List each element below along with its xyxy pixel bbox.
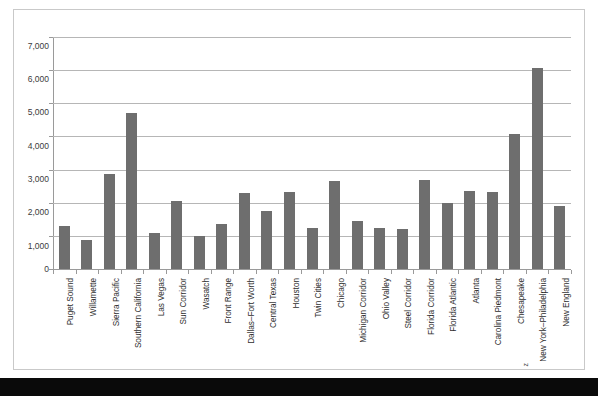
bar-chart: 7,000 6,000 5,000 4,000 3,000 2,000 1,00…: [14, 10, 586, 369]
bar: [532, 68, 543, 269]
bar: [397, 229, 408, 269]
x-axis-label: Central Texas: [270, 278, 278, 328]
x-axis-label: Twin Cities: [315, 278, 323, 318]
gridline: [53, 37, 571, 38]
bar: [239, 193, 250, 269]
footer-strip: [0, 378, 598, 396]
x-axis-tick: [526, 270, 527, 274]
x-axis-tick: [323, 270, 324, 274]
x-axis-label: Front Range: [225, 278, 233, 324]
bar: [171, 201, 182, 269]
axis-baseline: [53, 269, 571, 270]
document-page-frame: 7,000 6,000 5,000 4,000 3,000 2,000 1,00…: [13, 9, 585, 370]
bar: [307, 228, 318, 269]
bar: [374, 228, 385, 269]
bar: [284, 192, 295, 269]
y-axis-label: 6,000: [15, 75, 49, 84]
bar: [352, 221, 363, 269]
x-axis-label: Puget Sound: [67, 278, 75, 325]
x-axis-label: Chicago: [338, 278, 346, 308]
bar: [81, 240, 92, 269]
x-axis-tick: [143, 270, 144, 274]
plot-area: [53, 37, 571, 269]
x-axis-tick: [188, 270, 189, 274]
x-axis-tick: [368, 270, 369, 274]
y-axis-label: 7,000: [15, 42, 49, 51]
bar: [194, 236, 205, 269]
x-axis-tick: [211, 270, 212, 274]
x-axis-label: Sun Corridor: [180, 278, 188, 324]
x-axis-label: Southern California: [135, 278, 143, 348]
bar: [509, 134, 520, 269]
x-axis-label: New York–Philadelphia: [540, 278, 548, 362]
x-axis-label: Michigan Corridor: [360, 278, 368, 343]
x-axis-label: Florida Corridor: [428, 278, 436, 335]
x-axis-label: New England: [563, 278, 571, 327]
x-axis-tick: [233, 270, 234, 274]
gridline: [53, 103, 571, 104]
gridline: [53, 70, 571, 71]
x-axis-tick: [436, 270, 437, 274]
x-axis-tick: [413, 270, 414, 274]
x-axis-label: Las Vegas: [158, 278, 166, 316]
x-axis-tick: [278, 270, 279, 274]
x-axis-tick: [53, 270, 54, 274]
x-axis-label: Ohio Valley: [383, 278, 391, 319]
y-axis-label: 2,000: [15, 208, 49, 217]
x-axis-tick: [571, 270, 572, 274]
y-axis-label: 1,000: [15, 242, 49, 251]
y-axis-label: 3,000: [15, 175, 49, 184]
bar: [261, 211, 272, 269]
x-axis-tick: [391, 270, 392, 274]
page-mark: z: [521, 363, 528, 367]
x-axis-label: Steel Corridor: [405, 278, 413, 329]
y-axis-labels: 7,000 6,000 5,000 4,000 3,000 2,000 1,00…: [14, 10, 49, 310]
bar: [464, 191, 475, 269]
x-axis-label: Chesapeake: [518, 278, 526, 324]
bar: [329, 181, 340, 269]
bar: [216, 224, 227, 269]
bar: [442, 203, 453, 269]
x-axis-tick: [256, 270, 257, 274]
x-axis-label: Carolina Piedmont: [495, 278, 503, 345]
x-axis-tick: [503, 270, 504, 274]
x-axis-label: Atlanta: [473, 278, 481, 304]
bar: [126, 113, 137, 269]
y-axis-label: 4,000: [15, 142, 49, 151]
x-axis-tick: [301, 270, 302, 274]
x-axis-tick: [481, 270, 482, 274]
x-axis-tick: [76, 270, 77, 274]
x-axis-label: Wasatch: [203, 278, 211, 310]
bar: [149, 233, 160, 269]
x-axis-tick: [121, 270, 122, 274]
bar: [104, 174, 115, 269]
x-axis-label: Dallas–Fort Worth: [248, 278, 256, 344]
x-axis-tick: [98, 270, 99, 274]
bar: [554, 206, 565, 269]
x-axis-label: Sierra Pacific: [113, 278, 121, 326]
x-axis-tick: [458, 270, 459, 274]
x-axis-tick: [346, 270, 347, 274]
x-axis-tick: [166, 270, 167, 274]
bar: [59, 226, 70, 269]
x-axis-tick: [548, 270, 549, 274]
y-axis-label: 0: [15, 265, 49, 274]
x-axis-label: Willamette: [90, 278, 98, 316]
bar: [487, 192, 498, 269]
x-axis-label: Houston: [293, 278, 301, 309]
bar: [419, 180, 430, 269]
y-axis-label: 5,000: [15, 108, 49, 117]
x-axis-label: Florida Atlantic: [450, 278, 458, 332]
